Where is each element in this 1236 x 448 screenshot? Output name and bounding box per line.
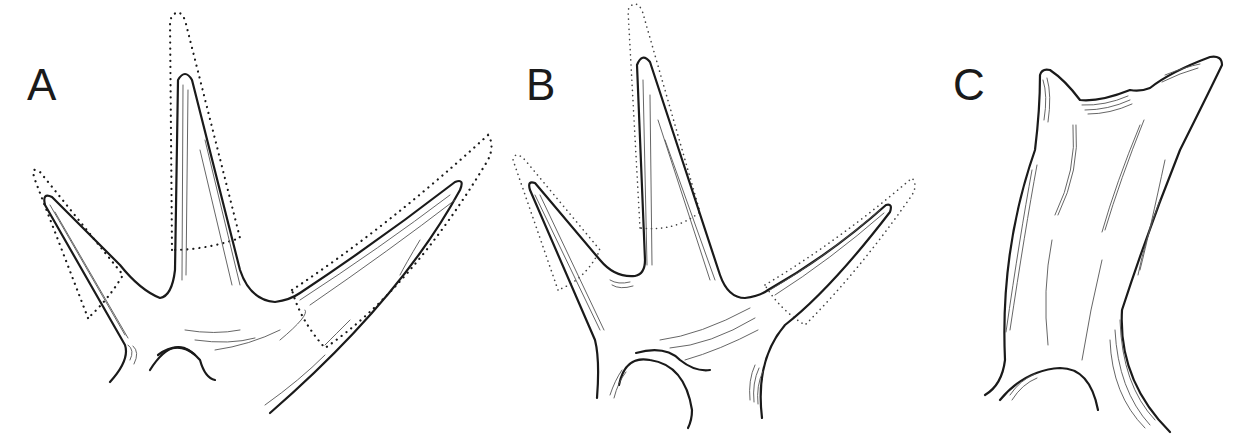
antler-drawing-c — [940, 0, 1236, 448]
panel-b: B — [500, 0, 940, 448]
antler-drawing-b — [500, 0, 940, 448]
panel-a: A — [0, 0, 500, 448]
panel-c: C — [940, 0, 1236, 448]
antler-drawing-a — [0, 0, 500, 448]
